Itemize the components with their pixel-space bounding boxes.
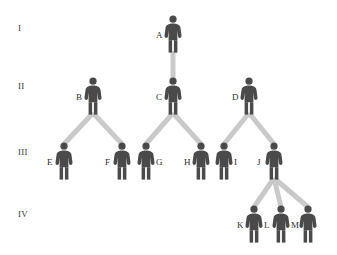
person-label-h: H xyxy=(184,158,191,167)
person-figure-b[interactable] xyxy=(84,77,102,115)
edge-j-m xyxy=(274,178,308,207)
person-label-m: M xyxy=(291,221,299,230)
edge-j-l xyxy=(274,178,281,207)
person-figure-l[interactable] xyxy=(272,205,290,243)
person-label-a: A xyxy=(156,31,163,40)
generation-label-ii: II xyxy=(18,82,25,91)
edge-j-k xyxy=(254,178,274,207)
edge-d-j xyxy=(249,113,274,144)
person-figure-g[interactable] xyxy=(137,142,155,180)
pedigree-diagram: IIIIIIIV ABCDEFGHIJKLM xyxy=(0,0,337,255)
generation-label-iii: III xyxy=(18,148,28,157)
person-figure-m[interactable] xyxy=(299,205,317,243)
person-label-i: I xyxy=(234,158,237,167)
person-label-f: F xyxy=(105,158,110,167)
edge-c-g xyxy=(146,113,173,144)
edge-d-i xyxy=(224,113,249,144)
person-figure-f[interactable] xyxy=(113,142,131,180)
person-figure-j[interactable] xyxy=(265,142,283,180)
generation-label-i: I xyxy=(18,24,21,33)
person-figure-a[interactable] xyxy=(164,15,182,53)
person-figure-c[interactable] xyxy=(164,77,182,115)
person-label-c: C xyxy=(156,93,162,102)
edge-b-e xyxy=(64,113,93,144)
edge-c-h xyxy=(173,113,201,144)
person-label-b: B xyxy=(76,93,82,102)
edge-b-f xyxy=(93,113,122,144)
person-label-l: L xyxy=(264,221,270,230)
person-figure-h[interactable] xyxy=(192,142,210,180)
person-figure-e[interactable] xyxy=(55,142,73,180)
generation-label-iv: IV xyxy=(18,210,28,219)
person-label-k: K xyxy=(237,221,244,230)
person-label-d: D xyxy=(232,93,239,102)
person-figure-i[interactable] xyxy=(215,142,233,180)
person-figure-d[interactable] xyxy=(240,77,258,115)
person-label-g: G xyxy=(156,158,163,167)
person-label-e: E xyxy=(47,158,53,167)
person-figure-k[interactable] xyxy=(245,205,263,243)
person-label-j: J xyxy=(257,158,261,167)
